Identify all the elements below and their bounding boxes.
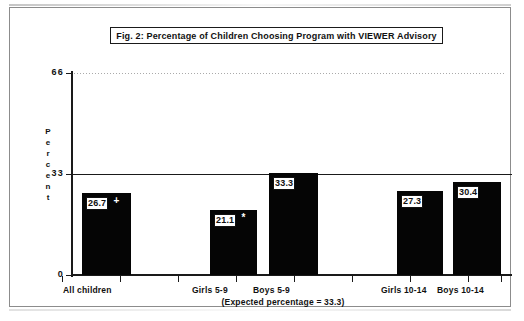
y-axis-title-letter: P [45, 126, 50, 137]
category-label-girls-10-14: Girls 10-14 [381, 285, 427, 295]
significance-marker: + [114, 196, 120, 205]
x-tick-mark [62, 276, 63, 282]
y-tick-label-0: 0 [38, 269, 64, 279]
figure-frame: Fig. 2: Percentage of Children Choosing … [9, 7, 511, 307]
y-tick-label-66: 66 [38, 67, 64, 77]
x-tick-mark [236, 276, 237, 282]
x-tick-mark [501, 276, 502, 282]
category-label-boys-5-9: Boys 5-9 [253, 285, 290, 295]
x-tick-mark [352, 276, 353, 282]
bar-value-label: 21.1 [214, 214, 236, 227]
y-axis-title: P e r c e n t [42, 126, 54, 203]
scan-edge-bottom [9, 309, 511, 311]
x-tick-mark [468, 276, 469, 282]
figure-title: Fig. 2: Percentage of Children Choosing … [116, 31, 436, 41]
figure-caption: (Expected percentage = 33.3) [10, 297, 524, 307]
y-axis-title-letter: t [47, 192, 50, 203]
scan-edge-top [9, 4, 511, 6]
bar-value-label: 33.3 [273, 177, 295, 190]
x-tick-mark [410, 276, 411, 282]
y-axis-title-letter: r [46, 148, 49, 159]
y-axis-title-letter: c [46, 159, 50, 170]
significance-marker: * [242, 213, 246, 222]
bar-value-label: 26.7 [86, 197, 108, 210]
x-tick-mark [120, 276, 121, 282]
bar-value-label: 27.3 [401, 195, 423, 208]
figure-title-box: Fig. 2: Percentage of Children Choosing … [110, 27, 443, 44]
bar-value-label: 30.4 [457, 186, 479, 199]
x-tick-mark [294, 276, 295, 282]
y-axis-title-letter: e [46, 170, 50, 181]
y-axis-title-letter: n [46, 181, 51, 192]
category-label-boys-10-14: Boys 10-14 [437, 285, 484, 295]
figure-caption-text: (Expected percentage = 33.3) [200, 297, 345, 307]
category-label-all-children: All children [63, 285, 112, 295]
y-tick-mark-0 [66, 275, 72, 276]
y-axis-title-letter: e [46, 137, 50, 148]
category-label-girls-5-9: Girls 5-9 [192, 285, 228, 295]
bars-layer: 26.7+21.1*33.327.330.4 [72, 73, 512, 275]
x-tick-mark [178, 276, 179, 282]
